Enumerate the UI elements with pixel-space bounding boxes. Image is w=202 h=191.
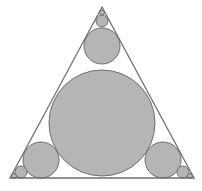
circle-right-medium — [145, 142, 181, 178]
circles-group — [12, 10, 193, 179]
circle-left-medium — [23, 142, 59, 178]
triangle-circles-diagram — [0, 0, 202, 191]
circle-big — [49, 70, 155, 176]
circle-top-medium — [84, 28, 120, 64]
circle-top-small — [96, 15, 108, 27]
